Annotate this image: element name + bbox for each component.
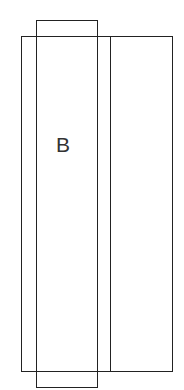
panel-b-label: B bbox=[56, 134, 70, 155]
right-panel bbox=[110, 36, 173, 372]
panel-b bbox=[36, 20, 98, 388]
